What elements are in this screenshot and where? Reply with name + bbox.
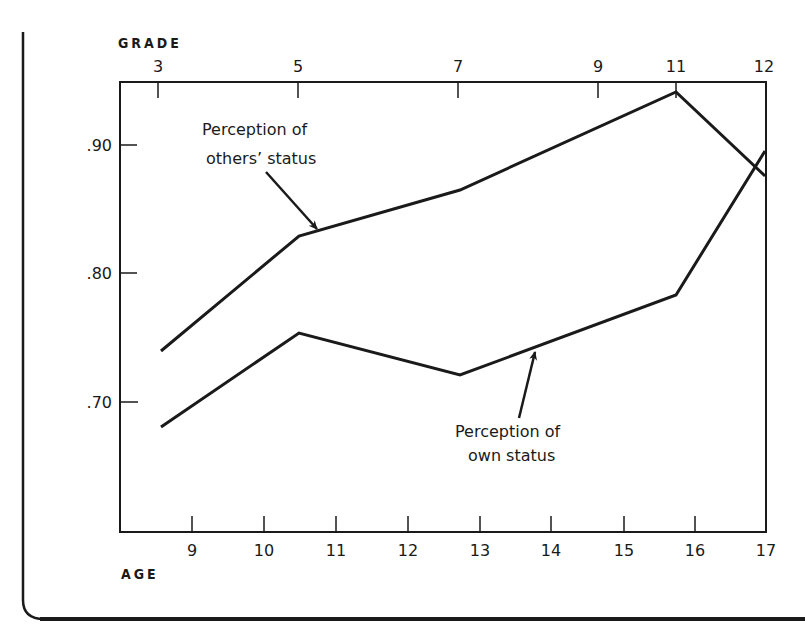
grade-axis-labels: 3 5 7 9 11 12: [153, 57, 774, 76]
age-tick-label: 11: [326, 541, 346, 560]
age-tick-label: 12: [398, 541, 418, 560]
y-tick-label: .80: [87, 264, 112, 283]
y-tick-label: .90: [87, 136, 112, 155]
grade-tick-label: 7: [453, 57, 463, 76]
series-own-status-line: [161, 151, 765, 427]
age-tick-label: 15: [614, 541, 634, 560]
age-axis-ticks: [192, 516, 695, 532]
age-tick-label: 16: [685, 541, 705, 560]
annotation-own-arrow-icon: [519, 352, 535, 418]
annotation-others-line2: others’ status: [206, 149, 316, 168]
annotation-others-status: Perception of others’ status: [202, 120, 317, 229]
line-chart: GRADE 3 5 7 9 11 12 .90 .80 .70 9 1: [0, 0, 805, 639]
age-tick-label: 14: [541, 541, 561, 560]
age-axis-title: AGE: [121, 566, 159, 582]
grade-tick-label: 5: [293, 57, 303, 76]
grade-tick-label: 11: [666, 57, 686, 76]
age-tick-label: 10: [254, 541, 274, 560]
y-tick-label: .70: [87, 393, 112, 412]
annotation-own-line1: Perception of: [455, 422, 560, 441]
y-axis-ticks: [120, 145, 138, 402]
grade-tick-label: 9: [593, 57, 603, 76]
annotation-others-arrow-icon: [266, 172, 317, 229]
age-tick-label: 9: [187, 541, 197, 560]
grade-axis-ticks: [158, 82, 676, 98]
age-tick-label: 13: [470, 541, 490, 560]
y-axis-labels: .90 .80 .70: [87, 136, 112, 412]
grade-tick-label: 3: [153, 57, 163, 76]
grade-axis-title: GRADE: [118, 35, 182, 51]
age-tick-label: 17: [756, 541, 776, 560]
annotation-others-line1: Perception of: [202, 120, 307, 139]
annotation-own-status: Perception of own status: [455, 352, 560, 465]
age-axis-labels: 9 10 11 12 13 14 15 16 17: [187, 541, 776, 560]
page-frame-border: [23, 32, 805, 619]
annotation-own-line2: own status: [468, 446, 555, 465]
grade-tick-label: 12: [754, 57, 774, 76]
